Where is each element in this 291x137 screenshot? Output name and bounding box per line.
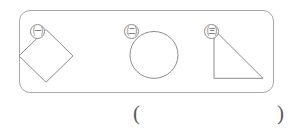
- right-triangle-shape: [195, 11, 275, 92]
- circled-korean-giyeok-icon: ㈠: [30, 24, 45, 39]
- circle-shape: [115, 11, 195, 92]
- answer-blank[interactable]: ( ): [0, 98, 291, 132]
- right-triangle-outline: [214, 30, 263, 79]
- circled-korean-nieun-icon: ㈡: [124, 24, 139, 39]
- rhombus-shape: [20, 11, 115, 92]
- figure-item-circle: ㈡: [115, 11, 195, 92]
- answer-close-paren: ): [277, 98, 284, 128]
- figure-item-rhombus: ㈠: [20, 11, 115, 92]
- rhombus-outline: [19, 30, 73, 83]
- circled-korean-digeut-icon: ㈢: [204, 24, 219, 39]
- answer-open-paren: (: [133, 98, 140, 128]
- figure-item-right-triangle: ㈢: [195, 11, 275, 92]
- figure-group-box: ㈠ ㈡ ㈢: [19, 10, 274, 93]
- circle-outline: [130, 31, 178, 78]
- answer-blank-value[interactable]: [148, 98, 273, 128]
